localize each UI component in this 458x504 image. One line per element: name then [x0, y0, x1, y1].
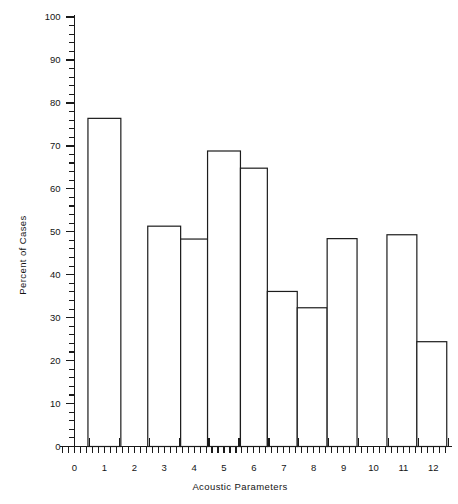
y-axis-tick-labels: 0102030405060708090100: [45, 11, 61, 452]
y-tick-label: 50: [50, 226, 61, 237]
x-tick-label: 0: [72, 462, 77, 473]
y-tick-label: 20: [50, 355, 61, 366]
y-tick-label: 0: [55, 441, 60, 452]
x-tick-label: 10: [368, 462, 379, 473]
x-tick-label: 6: [251, 462, 256, 473]
y-tick-label: 10: [50, 398, 61, 409]
x-tick-label: 4: [191, 462, 196, 473]
y-tick-label: 100: [45, 11, 61, 22]
x-tick-label: 2: [132, 462, 137, 473]
bar: [387, 235, 417, 447]
bar: [240, 168, 267, 446]
x-tick-label: 3: [162, 462, 167, 473]
bar: [181, 239, 208, 446]
bar: [297, 308, 327, 447]
bar: [148, 226, 181, 446]
bar: [417, 342, 447, 447]
y-axis-ticks: [66, 17, 75, 447]
plot-bars: [88, 118, 447, 446]
y-axis-title: Percent of Cases: [17, 215, 28, 294]
y-tick-label: 40: [50, 269, 61, 280]
bar: [267, 291, 297, 446]
bar: [327, 239, 357, 447]
y-tick-label: 90: [50, 54, 61, 65]
x-axis-title: Acoustic Parameters: [192, 481, 287, 492]
y-tick-label: 80: [50, 97, 61, 108]
x-tick-label: 12: [428, 462, 439, 473]
x-tick-label: 11: [398, 462, 408, 473]
bar-chart-figure: 0102030405060708090100 0123456789101112 …: [0, 0, 458, 504]
y-tick-label: 30: [50, 312, 61, 323]
x-tick-label: 5: [221, 462, 226, 473]
x-axis-tick-labels: 0123456789101112: [72, 462, 439, 473]
x-tick-label: 7: [281, 462, 286, 473]
y-tick-label: 70: [50, 140, 61, 151]
x-tick-label: 1: [102, 462, 107, 473]
y-tick-label: 60: [50, 183, 61, 194]
x-tick-label: 9: [341, 462, 346, 473]
bar: [88, 118, 121, 446]
x-tick-label: 8: [311, 462, 316, 473]
chart-canvas: 0102030405060708090100 0123456789101112 …: [0, 0, 458, 504]
bar: [208, 151, 241, 447]
